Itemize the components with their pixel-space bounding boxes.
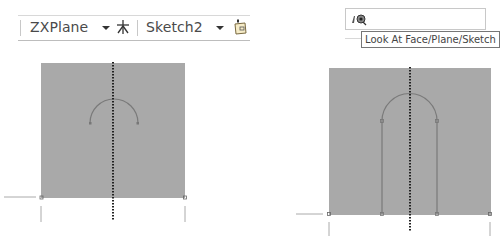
- arc-endpoint: [137, 122, 140, 125]
- right-sketch-view: [296, 67, 492, 236]
- arc-endpoint: [89, 122, 92, 125]
- plane-face[interactable]: [329, 68, 491, 215]
- left-sketch-view: [4, 62, 187, 222]
